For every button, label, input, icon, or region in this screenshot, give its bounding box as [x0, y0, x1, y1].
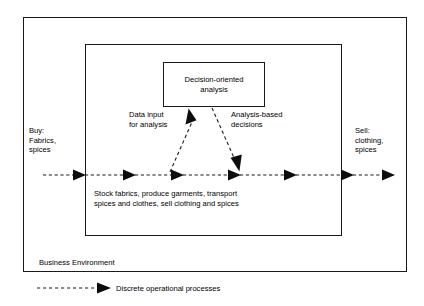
business-environment-label: Business Environment — [39, 258, 115, 268]
data-input-line2: for analysis — [129, 120, 167, 129]
buy-line2: Fabrics, — [29, 136, 56, 145]
decision-box-line1: Decision-oriented — [184, 75, 243, 84]
sell-line1: Sell: — [355, 126, 370, 135]
legend-label: Discrete operational processes — [116, 284, 220, 294]
analysis-based-line1: Analysis-based — [231, 110, 283, 119]
decision-oriented-analysis-box: Decision-orientedanalysis — [163, 62, 265, 107]
operations-caption: Stock fabrics, produce garments, transpo… — [94, 189, 239, 208]
ops-caption-line2: spices and clothes, sell clothing and sp… — [94, 199, 239, 208]
ops-caption-line1: Stock fabrics, produce garments, transpo… — [94, 189, 237, 198]
decision-box-text: Decision-orientedanalysis — [184, 75, 243, 94]
analysis-based-line2: decisions — [231, 120, 263, 129]
decision-box-line2: analysis — [200, 85, 227, 94]
data-input-connector — [170, 122, 192, 172]
buy-line3: spices — [29, 145, 51, 154]
analysis-based-annotation: Analysis-baseddecisions — [231, 110, 283, 129]
sell-line2: clothing, — [355, 136, 383, 145]
sell-output-label: Sell:clothing,spices — [355, 126, 383, 155]
analysis-decisions-arrowhead — [231, 154, 242, 171]
data-input-annotation: Data inputfor analysis — [129, 110, 167, 129]
data-input-line1: Data input — [129, 110, 164, 119]
sell-line3: spices — [355, 145, 377, 154]
buy-input-label: Buy:Fabrics,spices — [29, 126, 56, 155]
buy-line1: Buy: — [29, 126, 44, 135]
diagram-canvas: Decision-orientedanalysis Buy:Fabrics,sp… — [0, 0, 424, 306]
legend-arrow-head — [97, 283, 111, 294]
data-input-arrowhead — [186, 109, 197, 125]
